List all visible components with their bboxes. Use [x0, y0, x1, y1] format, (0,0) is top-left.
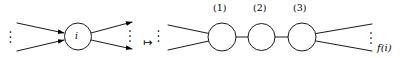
output-label: f(i)	[377, 43, 392, 53]
right-out-edge-top	[316, 24, 372, 34]
right-node-1-label: (1)	[213, 3, 226, 13]
right-out-edge-bottom	[316, 41, 372, 51]
maps-to-icon: ↦	[143, 37, 152, 48]
right-node-2	[248, 24, 275, 51]
left-out-edge-bottom	[91, 40, 132, 49]
right-node-3-label: (3)	[293, 3, 306, 13]
right-in-ellipsis	[158, 30, 160, 42]
left-in-ellipsis	[10, 31, 12, 43]
left-center-node-label: i	[75, 32, 78, 41]
figure-canvas: i ↦ (1) (2) (3) f(i)	[0, 0, 400, 58]
right-in-edge-bottom	[168, 41, 209, 50]
right-node-1	[208, 23, 236, 51]
right-in-edge-top	[168, 25, 209, 34]
left-out-ellipsis	[129, 30, 131, 42]
left-out-edge-top	[91, 22, 132, 33]
right-out-ellipsis	[370, 32, 372, 44]
left-in-edge-bottom	[17, 40, 64, 51]
right-node-3	[288, 23, 316, 51]
diagram-svg	[0, 0, 400, 58]
left-in-edge-top	[17, 23, 64, 33]
left-center-node	[65, 23, 92, 50]
right-node-2-label: (2)	[253, 3, 266, 13]
